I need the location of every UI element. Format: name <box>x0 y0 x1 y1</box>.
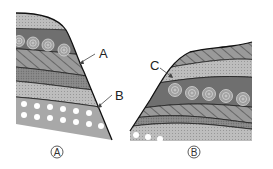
geology-diagram: A B C A B <box>0 0 273 169</box>
label-a-pointer: A <box>79 46 108 64</box>
caption-b: B <box>188 146 200 158</box>
label-a: A <box>99 46 108 61</box>
label-c: C <box>150 58 159 73</box>
caption-a-text: A <box>54 147 61 158</box>
label-b-pointer: B <box>97 88 124 108</box>
label-c-pointer: C <box>150 58 173 78</box>
label-b: B <box>115 88 124 103</box>
caption-a: A <box>51 146 63 158</box>
outcrop-b <box>120 0 260 160</box>
caption-b-text: B <box>191 147 198 158</box>
